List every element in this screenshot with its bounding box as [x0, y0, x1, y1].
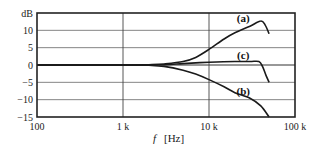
response-curves	[37, 21, 269, 117]
y-tick-label: dB	[21, 8, 33, 19]
x-axis-ticks: 1001 k10 k100 k	[30, 121, 307, 132]
y-tick-label: −10	[17, 94, 33, 105]
x-tick-label: 1 k	[117, 121, 130, 132]
series-label: (b)	[236, 85, 250, 98]
y-axis-ticks: dB1050−5−10−15	[17, 8, 33, 123]
y-tick-label: 10	[23, 25, 33, 36]
y-tick-label: 5	[28, 42, 33, 53]
curve-a	[37, 21, 269, 65]
y-tick-label: 0	[28, 60, 33, 71]
y-tick-label: −5	[22, 77, 33, 88]
series-label: (a)	[237, 12, 250, 25]
x-axis-symbol: f	[153, 132, 158, 144]
x-tick-label: 100	[30, 121, 45, 132]
frequency-response-chart: dB1050−5−10−15 1001 k10 k100 k (a)(c)(b)…	[0, 0, 316, 150]
curve-b	[37, 65, 269, 117]
x-tick-label: 100 k	[284, 121, 307, 132]
x-axis-unit: [Hz]	[164, 132, 184, 144]
series-label: (c)	[237, 49, 250, 62]
series-labels: (a)(c)(b)	[236, 12, 250, 98]
x-tick-label: 10 k	[200, 121, 218, 132]
